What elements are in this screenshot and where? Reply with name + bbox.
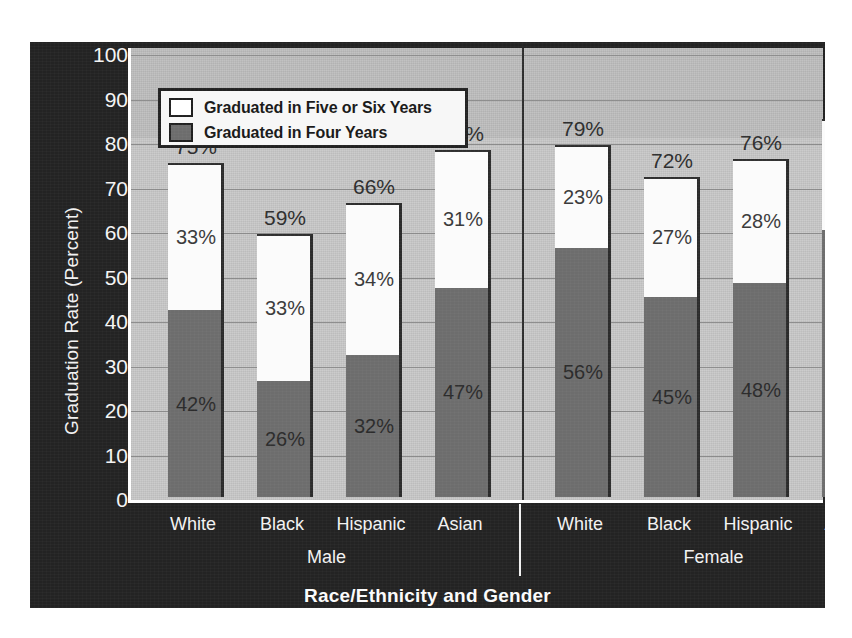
y-axis-tick-label: 70 bbox=[74, 178, 128, 199]
x-axis-category-label: Asian bbox=[400, 514, 520, 535]
chart-legend: Graduated in Five or Six Years Graduated… bbox=[158, 88, 468, 148]
legend-swatch-icon-white bbox=[169, 98, 193, 117]
bar-total-label: 72% bbox=[632, 149, 712, 173]
bar-stack[interactable]: 47%31%78% bbox=[435, 150, 491, 497]
bar-total-label: 59% bbox=[245, 206, 325, 230]
bar-stack[interactable]: 56%23%79% bbox=[555, 145, 611, 497]
bar-total-label: 76% bbox=[721, 131, 801, 155]
y-axis-tick-label: 90 bbox=[74, 89, 128, 110]
bar-segment-four-years[interactable] bbox=[555, 248, 611, 497]
chart-page: Graduation Rate (Percent) 10090807060504… bbox=[0, 0, 852, 638]
bar-segment-five-or-six-years[interactable] bbox=[257, 234, 313, 381]
legend-item-five-or-six-years: Graduated in Five or Six Years bbox=[169, 95, 457, 120]
y-axis-tick-label: 50 bbox=[74, 267, 128, 288]
bar-segment-five-or-six-years[interactable] bbox=[555, 145, 611, 247]
x-axis-group-separator bbox=[519, 504, 521, 576]
bar-total-label: 85% bbox=[810, 91, 825, 115]
chart-panel: Graduation Rate (Percent) 10090807060504… bbox=[30, 42, 825, 608]
bar-stack[interactable]: 32%34%66% bbox=[346, 203, 402, 497]
bar-segment-five-or-six-years[interactable] bbox=[168, 163, 224, 310]
y-axis-tick-label: 100 bbox=[74, 44, 128, 65]
legend-label: Graduated in Four Years bbox=[204, 124, 387, 142]
gridline bbox=[131, 55, 823, 56]
legend-swatch-icon-gray bbox=[169, 123, 193, 142]
y-axis-tick-label: 10 bbox=[74, 445, 128, 466]
y-axis-tick-label: 20 bbox=[74, 400, 128, 421]
bar-stack[interactable]: 60%25%85% bbox=[822, 119, 825, 497]
bar-segment-four-years[interactable] bbox=[168, 310, 224, 497]
bar-stack[interactable]: 45%27%72% bbox=[644, 177, 700, 497]
x-axis-group-label: Male bbox=[247, 547, 407, 568]
bar-segment-four-years[interactable] bbox=[257, 381, 313, 497]
bar-segment-five-or-six-years[interactable] bbox=[644, 177, 700, 297]
x-axis-title: Race/Ethnicity and Gender bbox=[30, 585, 825, 607]
bar-segment-four-years[interactable] bbox=[733, 283, 789, 497]
bar-stack[interactable]: 42%33%75% bbox=[168, 163, 224, 497]
x-axis-category-label: Asian bbox=[787, 514, 825, 535]
bar-total-label: 79% bbox=[543, 117, 623, 141]
y-axis-tick-label: 80 bbox=[74, 133, 128, 154]
y-axis-ticks: 1009080706050403020100 bbox=[70, 42, 128, 608]
bar-segment-four-years[interactable] bbox=[346, 355, 402, 497]
bar-segment-four-years[interactable] bbox=[435, 288, 491, 497]
y-axis-tick-label: 0 bbox=[74, 489, 128, 510]
y-axis-tick-label: 60 bbox=[74, 222, 128, 243]
bar-segment-five-or-six-years[interactable] bbox=[822, 119, 825, 230]
bar-segment-five-or-six-years[interactable] bbox=[346, 203, 402, 354]
bar-stack[interactable]: 26%33%59% bbox=[257, 234, 313, 497]
bar-stack[interactable]: 48%28%76% bbox=[733, 159, 789, 497]
bar-segment-four-years[interactable] bbox=[644, 297, 700, 497]
legend-label: Graduated in Five or Six Years bbox=[204, 99, 432, 117]
legend-item-four-years: Graduated in Four Years bbox=[169, 120, 457, 145]
y-axis-tick-label: 40 bbox=[74, 311, 128, 332]
male-female-divider bbox=[522, 48, 524, 500]
x-axis-group-label: Female bbox=[634, 547, 794, 568]
bar-segment-four-years[interactable] bbox=[822, 230, 825, 497]
y-axis-tick-label: 30 bbox=[74, 356, 128, 377]
bar-total-label: 66% bbox=[334, 175, 414, 199]
bar-segment-five-or-six-years[interactable] bbox=[435, 150, 491, 288]
bar-segment-five-or-six-years[interactable] bbox=[733, 159, 789, 284]
